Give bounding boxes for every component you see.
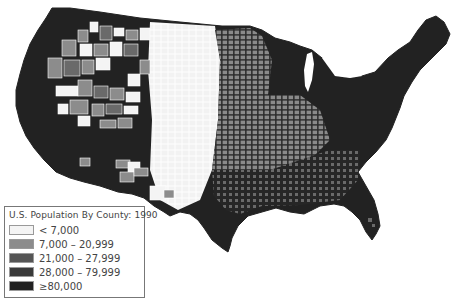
legend-title: U.S. Population By County: 1990 [9,210,140,220]
legend-label: 28,000 – 79,999 [39,267,120,278]
legend-swatch [9,267,34,277]
legend-swatch [9,239,34,249]
legend-item-gte-80000: ≥80,000 [9,279,140,293]
legend-label: < 7,000 [39,225,79,236]
map-legend: U.S. Population By County: 1990 < 7,000 … [4,206,145,298]
legend-label: 7,000 – 20,999 [39,239,114,250]
legend-swatch [9,281,34,291]
legend-label: 21,000 – 27,999 [39,253,120,264]
legend-item-28000-79999: 28,000 – 79,999 [9,265,140,279]
legend-item-lt-7000: < 7,000 [9,223,140,237]
legend-item-7000-20999: 7,000 – 20,999 [9,237,140,251]
legend-swatch [9,253,34,263]
legend-item-21000-27999: 21,000 – 27,999 [9,251,140,265]
legend-swatch [9,225,34,235]
legend-label: ≥80,000 [39,281,82,292]
